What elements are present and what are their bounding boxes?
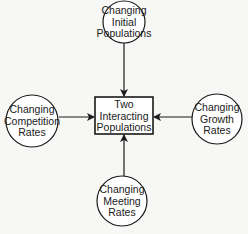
label-line: Populations: [84, 28, 164, 40]
label-line: Changing: [82, 184, 162, 196]
node-left-label: Changing Competition Rates: [0, 104, 72, 139]
label-line: Rates: [82, 207, 162, 219]
label-line: Rates: [177, 125, 248, 137]
label-line: Changing: [0, 104, 72, 116]
label-line: Two: [84, 99, 164, 111]
label-line: Changing: [177, 102, 248, 114]
label-line: Populations: [84, 122, 164, 134]
node-bottom-label: Changing Meeting Rates: [82, 184, 162, 219]
label-line: Changing: [84, 5, 164, 17]
center-box-label: Two Interacting Populations: [84, 99, 164, 134]
label-line: Rates: [0, 127, 72, 139]
node-top-label: Changing Initial Populations: [84, 5, 164, 40]
node-right-label: Changing Growth Rates: [177, 102, 248, 137]
